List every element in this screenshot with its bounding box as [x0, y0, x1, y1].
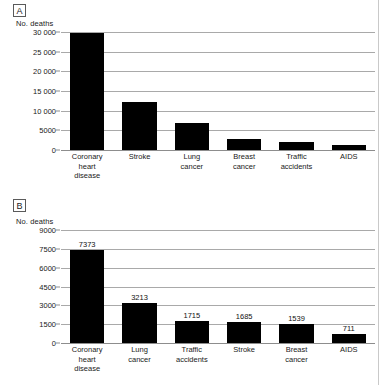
- panel-b-x-category-label: Coronaryheartdisease: [61, 345, 113, 374]
- panel-b-bar: 711: [332, 334, 367, 343]
- panel-b-tick-mark: [56, 249, 60, 250]
- panel-b-bar-slot: 1715: [166, 230, 218, 343]
- panel-b-gridline: [61, 343, 375, 344]
- panel-b-tag: B: [13, 199, 26, 212]
- panel-a-x-category-line: Stroke: [114, 152, 164, 162]
- panel-b-tick-mark: [56, 230, 60, 231]
- panel-b-tick-mark: [56, 343, 60, 344]
- panel-b-x-category-label: AIDS: [323, 345, 375, 374]
- panel-a-y-tick-label: 10 000: [33, 107, 56, 116]
- panel-b-x-category-label: Lungcancer: [113, 345, 165, 374]
- panel-a-y-tick-label: 15 000: [33, 87, 56, 96]
- panel-a-x-category-label: Breastcancer: [218, 152, 270, 181]
- panel-a-gridline: [61, 150, 375, 151]
- panel-b-bar-value-label: 1685: [236, 312, 253, 321]
- panel-a-bar-slot: [113, 32, 165, 150]
- panel-b-bar-value-label: 1715: [183, 311, 200, 320]
- panel-b-plot-area: 0150030004500600075009000 73733213171516…: [61, 230, 375, 343]
- panel-b-x-category-line: heart: [62, 355, 112, 365]
- panel-b-bars: 73733213171516851539711: [61, 230, 375, 343]
- panel-a-y-tick-label: 25 000: [33, 48, 56, 57]
- panel-a-x-category-label: Trafficaccidents: [270, 152, 322, 181]
- panel-a-bar: [175, 123, 210, 150]
- panel-a-bar: [332, 145, 367, 150]
- panel-b-y-tick-label: 1500: [39, 320, 56, 329]
- panel-b-bar-slot: 711: [323, 230, 375, 343]
- panel-b-tick-mark: [56, 305, 60, 306]
- panel-b-bar-slot: 1685: [218, 230, 270, 343]
- panel-b-bar: 3213: [122, 303, 157, 343]
- panel-a-x-category-line: AIDS: [324, 152, 374, 162]
- panel-a-bar: [122, 102, 157, 150]
- panel-a-bar: [279, 142, 314, 150]
- panel-a-x-category-line: accidents: [271, 162, 321, 172]
- panel-a-tick-mark: [56, 130, 60, 131]
- panel-b-bar-slot: 3213: [113, 230, 165, 343]
- panel-a-bar-slot: [323, 32, 375, 150]
- panel-b-x-category-line: Breast: [271, 345, 321, 355]
- panel-a-x-category-line: heart: [62, 162, 112, 172]
- panel-b-bar-value-label: 711: [343, 324, 355, 333]
- panel-b-bar: 7373: [70, 250, 105, 343]
- panel-b-x-category-line: accidents: [167, 355, 217, 365]
- panel-b-bar-value-label: 3213: [131, 293, 148, 302]
- panel-a-bar: [227, 139, 262, 150]
- panel-a-y-tick-label: 0: [52, 146, 56, 155]
- figure-container: A No. deaths 0500010 00015 00020 00025 0…: [0, 0, 391, 385]
- panel-b-x-category-line: Traffic: [167, 345, 217, 355]
- panel-a-tick-mark: [56, 32, 60, 33]
- panel-a-x-category-label: Lungcancer: [166, 152, 218, 181]
- panel-b-y-tick-label: 0: [52, 339, 56, 348]
- panel-b-bar-slot: 1539: [270, 230, 322, 343]
- panel-a-x-category-line: disease: [62, 171, 112, 181]
- panel-a-tick-mark: [56, 71, 60, 72]
- panel-a-tick-mark: [56, 52, 60, 53]
- panel-b-bar-value-label: 1539: [288, 314, 305, 323]
- panel-a-y-tick-label: 5000: [39, 126, 56, 135]
- panel-b-category-labels: CoronaryheartdiseaseLungcancerTrafficacc…: [61, 345, 375, 374]
- panel-a-bar-slot: [218, 32, 270, 150]
- panel-a-plot-area: 0500010 00015 00020 00025 00030 000: [61, 32, 375, 150]
- panel-b-x-category-line: cancer: [271, 355, 321, 365]
- panel-a-tick-mark: [56, 91, 60, 92]
- panel-a-x-category-line: Coronary: [62, 152, 112, 162]
- panel-b-y-tick-label: 4500: [39, 283, 56, 292]
- panel-a-tag: A: [13, 4, 26, 17]
- panel-a-x-category-line: cancer: [167, 162, 217, 172]
- panel-b-bar: 1685: [227, 322, 262, 343]
- panel-a-x-category-label: AIDS: [323, 152, 375, 181]
- panel-a-x-category-line: Breast: [219, 152, 269, 162]
- panel-a-y-tick-label: 20 000: [33, 67, 56, 76]
- panel-b-x-category-line: Coronary: [62, 345, 112, 355]
- panel-a-tick-mark: [56, 111, 60, 112]
- panel-a-x-category-line: Lung: [167, 152, 217, 162]
- panel-b-x-category-line: Lung: [114, 345, 164, 355]
- panel-b-bar: 1539: [279, 324, 314, 343]
- panel-a-bars: [61, 32, 375, 150]
- panel-a-bar-slot: [166, 32, 218, 150]
- panel-b-x-category-label: Stroke: [218, 345, 270, 374]
- panel-b-x-category-line: disease: [62, 364, 112, 374]
- panel-b-x-category-line: AIDS: [324, 345, 374, 355]
- panel-b-x-category-line: Stroke: [219, 345, 269, 355]
- panel-b-bar: 1715: [175, 321, 210, 343]
- panel-b-bar-value-label: 7373: [79, 240, 96, 249]
- panel-b-x-category-label: Breastcancer: [270, 345, 322, 374]
- panel-b-x-category-label: Trafficaccidents: [166, 345, 218, 374]
- panel-a-tick-mark: [56, 150, 60, 151]
- panel-b-bar-slot: 7373: [61, 230, 113, 343]
- panel-b-y-tick-label: 3000: [39, 301, 56, 310]
- panel-b-y-tick-label: 9000: [39, 226, 56, 235]
- panel-b-y-tick-label: 6000: [39, 264, 56, 273]
- panel-b-tick-mark: [56, 324, 60, 325]
- panel-a-x-category-label: Stroke: [113, 152, 165, 181]
- panel-a-bar: [70, 33, 105, 150]
- panel-b: B No. deaths 0150030004500600075009000 7…: [0, 193, 391, 385]
- panel-a-category-labels: CoronaryheartdiseaseStrokeLungcancerBrea…: [61, 152, 375, 181]
- panel-b-tick-mark: [56, 268, 60, 269]
- panel-a-x-category-line: Traffic: [271, 152, 321, 162]
- panel-a-bar-slot: [270, 32, 322, 150]
- panel-a-x-category-line: cancer: [219, 162, 269, 172]
- panel-b-x-category-line: cancer: [114, 355, 164, 365]
- panel-a-y-tick-label: 30 000: [33, 28, 56, 37]
